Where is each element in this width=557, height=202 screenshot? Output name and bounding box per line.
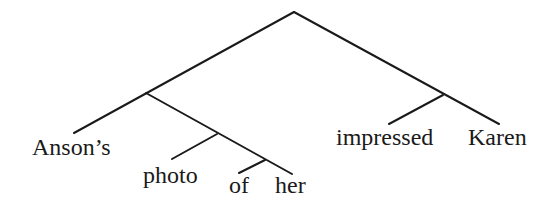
leaf-ansons: Anson’s xyxy=(32,135,111,159)
leaf-photo: photo xyxy=(143,163,198,187)
leaf-karen: Karen xyxy=(468,125,527,149)
branch-v-impressed xyxy=(389,95,443,124)
leaf-impressed: impressed xyxy=(336,125,433,149)
leaf-her: her xyxy=(275,173,306,197)
leaf-of: of xyxy=(229,173,249,197)
branch-n-photo xyxy=(172,134,217,159)
branch-root-right xyxy=(294,12,499,124)
